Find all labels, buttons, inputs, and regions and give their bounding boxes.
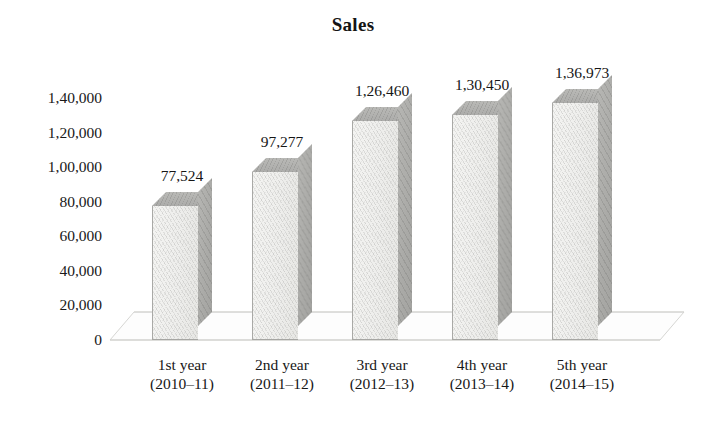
bar-front-face	[252, 172, 298, 340]
bar-value-label: 97,277	[230, 134, 334, 150]
category-line-1: 5th year	[557, 356, 607, 373]
bar-side-face	[498, 87, 512, 326]
bar-side-face	[198, 178, 212, 326]
x-axis-category-label: 3rd year(2012–13)	[328, 355, 436, 393]
category-line-2: (2013–14)	[428, 374, 536, 393]
bar-front-face	[352, 121, 398, 340]
plot-area: 77,5241st year(2010–11)97,2772nd year(20…	[0, 0, 706, 426]
x-axis-category-label: 4th year(2013–14)	[428, 355, 536, 393]
bar-column[interactable]	[352, 121, 398, 340]
bar-value-label: 1,26,460	[330, 83, 434, 99]
bar-front-face	[452, 115, 498, 340]
bar-value-label: 1,36,973	[530, 65, 634, 81]
bar-column[interactable]	[452, 115, 498, 340]
bar-side-face	[298, 144, 312, 326]
x-axis-category-label: 5th year(2014–15)	[528, 355, 636, 393]
category-line-2: (2011–12)	[228, 374, 336, 393]
x-axis-category-label: 1st year(2010–11)	[128, 355, 236, 393]
sales-3d-bar-chart: Sales 1,40,0001,20,0001,00,00080,00060,0…	[0, 0, 706, 426]
category-line-1: 2nd year	[255, 356, 309, 373]
category-line-1: 4th year	[457, 356, 507, 373]
bar-side-face	[598, 75, 612, 326]
bar-column[interactable]	[152, 206, 198, 340]
bar-column[interactable]	[252, 172, 298, 340]
bar-value-label: 1,30,450	[430, 77, 534, 93]
bar-value-label: 77,524	[130, 168, 234, 184]
bar-column[interactable]	[552, 103, 598, 340]
category-line-2: (2010–11)	[128, 374, 236, 393]
bar-front-face	[552, 103, 598, 340]
category-line-1: 3rd year	[356, 356, 407, 373]
x-axis-category-label: 2nd year(2011–12)	[228, 355, 336, 393]
category-line-2: (2014–15)	[528, 374, 636, 393]
bar-front-face	[152, 206, 198, 340]
category-line-2: (2012–13)	[328, 374, 436, 393]
category-line-1: 1st year	[158, 356, 207, 373]
bar-side-face	[398, 93, 412, 326]
